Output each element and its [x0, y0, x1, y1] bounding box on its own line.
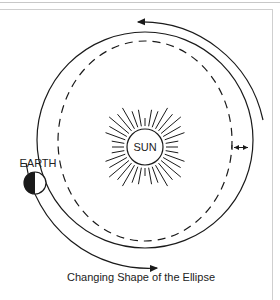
sun-label: SUN [133, 141, 156, 153]
earth-label: EARTH [19, 157, 56, 169]
earth-icon [24, 172, 46, 194]
width-arrow-icon [232, 145, 248, 150]
arrow-top-icon [138, 22, 263, 120]
diagram-caption: Changing Shape of the Ellipse [67, 271, 215, 283]
